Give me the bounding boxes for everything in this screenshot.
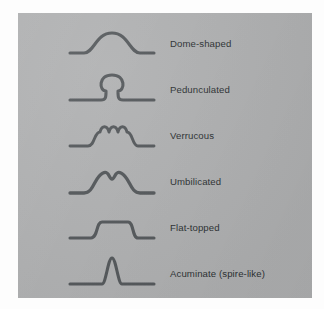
verrucous-profile-icon [68,115,156,155]
dome-shaped-path [70,33,154,53]
flat-topped-path [70,222,154,238]
list-item-label-verrucous: Verrucous [170,130,214,141]
list-item-flat-topped: Flat-topped [18,204,312,250]
umbilicated-profile-icon [68,161,156,201]
lesion-morphology-figure: Dome-shaped Pedunculated Verrucous [0,0,324,309]
lesion-type-list: Dome-shaped Pedunculated Verrucous [18,13,312,298]
pedunculated-path [70,75,154,100]
acuminate-path [70,258,154,284]
verrucous-path [70,127,154,146]
umbilicated-path [70,172,154,193]
list-item-umbilicated: Umbilicated [18,158,312,204]
list-item-label-pedunculated: Pedunculated [170,84,230,95]
list-item-label-umbilicated: Umbilicated [170,176,221,187]
flat-topped-profile-icon [68,207,156,247]
figure-panel: Dome-shaped Pedunculated Verrucous [18,13,312,298]
acuminate-profile-icon [68,253,156,293]
dome-shaped-profile-icon [68,23,156,63]
pedunculated-profile-icon [68,69,156,109]
list-item-acuminate: Acuminate (spire-like) [18,250,312,296]
list-item-label-acuminate: Acuminate (spire-like) [170,268,265,279]
list-item-pedunculated: Pedunculated [18,66,312,112]
list-item-label-dome-shaped: Dome-shaped [170,38,231,49]
list-item-label-flat-topped: Flat-topped [170,222,220,233]
list-item-dome-shaped: Dome-shaped [18,20,312,66]
list-item-verrucous: Verrucous [18,112,312,158]
